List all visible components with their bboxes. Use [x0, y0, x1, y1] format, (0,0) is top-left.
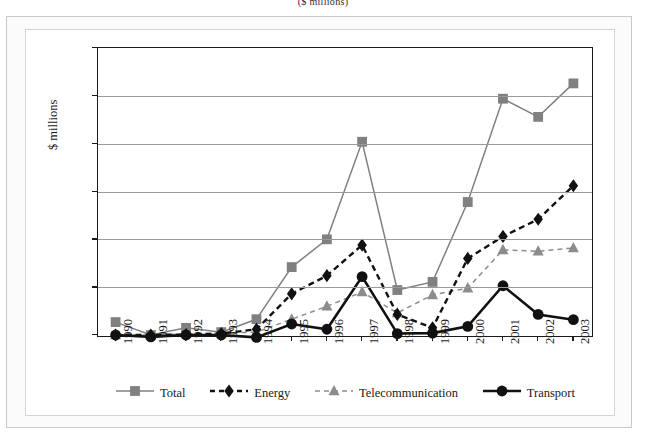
- data-point: [322, 269, 332, 282]
- x-tick-mark: [537, 337, 538, 341]
- data-point: [533, 213, 543, 226]
- gridline: [98, 144, 592, 145]
- x-tick-label: 1998: [402, 319, 417, 344]
- data-point: [357, 137, 367, 147]
- data-point: [568, 242, 579, 252]
- x-tick-mark: [220, 337, 221, 341]
- x-tick-label: 1990: [121, 319, 136, 344]
- x-tick-mark: [291, 337, 292, 341]
- circle-marker-icon: [482, 383, 522, 403]
- chart-legend: TotalEnergyTelecommunicationTransport: [97, 383, 593, 403]
- x-tick-label: 1999: [438, 319, 453, 344]
- data-point: [286, 319, 297, 330]
- plot-area: [97, 47, 593, 337]
- legend-item-total[interactable]: Total: [115, 383, 186, 403]
- data-point: [498, 230, 508, 243]
- legend-label: Energy: [254, 386, 290, 401]
- x-tick-mark: [255, 337, 256, 341]
- x-tick-label: 1995: [297, 319, 312, 344]
- gridline: [98, 192, 592, 193]
- data-point: [568, 78, 578, 88]
- data-point: [463, 197, 473, 207]
- x-tick-mark: [432, 337, 433, 341]
- x-tick-mark: [150, 337, 151, 341]
- x-tick-mark: [326, 337, 327, 341]
- gridline: [98, 96, 592, 97]
- data-point: [393, 308, 403, 321]
- x-tick-label: 2001: [508, 319, 523, 344]
- square-marker-icon: [115, 383, 155, 403]
- x-tick-label: 2000: [473, 319, 488, 344]
- x-tick-mark: [572, 337, 573, 341]
- gridline: [98, 239, 592, 240]
- legend-label: Total: [160, 386, 186, 401]
- legend-item-telecommunication[interactable]: Telecommunication: [314, 383, 458, 403]
- legend-label: Transport: [527, 386, 575, 401]
- x-tick-label: 1997: [367, 319, 382, 344]
- x-tick-mark: [115, 337, 116, 341]
- gridline: [98, 287, 592, 288]
- x-tick-label: 2002: [543, 319, 558, 344]
- x-tick-label: 1996: [332, 319, 347, 344]
- data-point: [427, 289, 438, 299]
- x-tick-mark: [467, 337, 468, 341]
- data-point: [497, 244, 508, 254]
- data-point: [287, 262, 297, 272]
- y-axis-label: $ millions: [46, 100, 61, 150]
- data-point: [533, 309, 544, 320]
- x-tick-label: 1992: [191, 319, 206, 344]
- diamond-marker-icon: [209, 383, 249, 403]
- data-point: [462, 321, 473, 332]
- x-tick-mark: [361, 337, 362, 341]
- line-chart: $ millions 3 0002 5002 0001 5001 0005000…: [0, 0, 646, 437]
- x-tick-label: 1993: [226, 319, 241, 344]
- data-point: [357, 271, 368, 282]
- legend-item-transport[interactable]: Transport: [482, 383, 575, 403]
- x-tick-label: 2003: [578, 319, 593, 344]
- x-tick-mark: [185, 337, 186, 341]
- data-point: [111, 317, 121, 327]
- data-point: [533, 112, 543, 122]
- data-point: [252, 314, 262, 324]
- chart-page: ($ millions) $ millions 3 0002 5002 0001…: [0, 0, 646, 437]
- series-energy: [111, 179, 578, 341]
- data-point: [428, 277, 438, 287]
- x-tick-label: 1994: [261, 319, 276, 344]
- triangle-marker-icon: [314, 383, 354, 403]
- data-point: [321, 324, 332, 335]
- legend-label: Telecommunication: [359, 386, 458, 401]
- legend-item-energy[interactable]: Energy: [209, 383, 290, 403]
- x-tick-mark: [396, 337, 397, 341]
- data-point: [498, 280, 509, 291]
- x-tick-label: 1991: [156, 319, 171, 344]
- x-tick-mark: [502, 337, 503, 341]
